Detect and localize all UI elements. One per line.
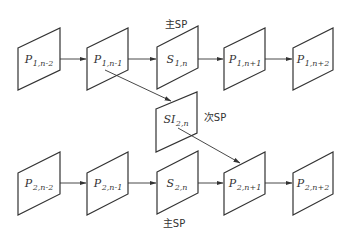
label-p2-n-1: P2,n-1 xyxy=(94,177,122,192)
label-s2-n: S2,n xyxy=(167,177,188,192)
label-p2-n+1: P2,n+1 xyxy=(229,177,261,192)
primary-sp-label-bottom: 主SP xyxy=(163,215,185,230)
label-p1-n-1: P1,n-1 xyxy=(94,53,122,68)
label-s1-n: S1,n xyxy=(167,53,188,68)
label-p2-n-2: P2,n-2 xyxy=(25,177,53,192)
label-si2-n: SI2,n xyxy=(163,113,188,128)
primary-sp-label-top: 主SP xyxy=(165,16,187,31)
sp-switching-diagram: P1,n-2 P1,n-1 S1,n P1,n+1 P1,n+2 SI2,n P… xyxy=(0,0,348,235)
label-p2-n+2: P2,n+2 xyxy=(297,177,329,192)
secondary-sp-label: 次SP xyxy=(204,109,226,124)
label-p1-n+2: P1,n+2 xyxy=(297,53,329,68)
label-p1-n-2: P1,n-2 xyxy=(25,53,53,68)
label-p1-n+1: P1,n+1 xyxy=(229,53,261,68)
